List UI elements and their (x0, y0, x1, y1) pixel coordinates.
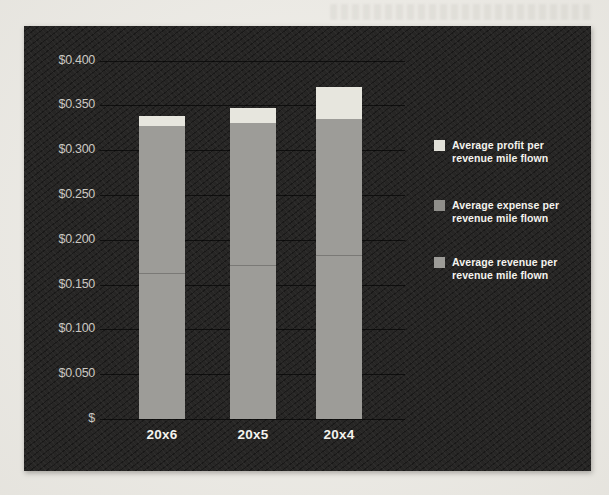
y-axis-tick-label: $0.400 (24, 53, 95, 67)
y-axis-tick-label: $0.350 (24, 97, 95, 111)
segment-revenue (230, 265, 276, 419)
x-axis-label-20x5: 20x5 (237, 427, 268, 442)
segment-profit (316, 87, 362, 119)
y-gridline (100, 61, 405, 62)
chart-panel: $$0.050$0.100$0.150$0.200$0.250$0.300$0.… (24, 26, 591, 471)
y-gridline (100, 419, 405, 420)
y-axis-tick-label: $0.300 (24, 142, 95, 156)
plot-area: $$0.050$0.100$0.150$0.200$0.250$0.300$0.… (24, 26, 591, 471)
y-axis-tick-label: $0.250 (24, 187, 95, 201)
segment-profit (230, 108, 276, 123)
segment-expense (230, 123, 276, 265)
y-axis-tick-label: $0.100 (24, 321, 95, 335)
segment-profit (139, 116, 185, 126)
scanned-page: $$0.050$0.100$0.150$0.200$0.250$0.300$0.… (0, 0, 609, 495)
segment-revenue (316, 255, 362, 419)
x-axis-label-20x4: 20x4 (323, 427, 354, 442)
segment-divider (230, 265, 276, 266)
segment-divider (316, 255, 362, 256)
segment-revenue (139, 273, 185, 419)
y-axis-tick-label: $0.200 (24, 232, 95, 246)
x-axis-label-20x6: 20x6 (146, 427, 177, 442)
segment-expense (139, 126, 185, 273)
y-axis-tick-label: $0.050 (24, 366, 95, 380)
segment-divider (139, 273, 185, 274)
y-axis-tick-label: $ (24, 411, 95, 425)
print-bleed-artifact (330, 4, 592, 20)
y-axis-tick-label: $0.150 (24, 277, 95, 291)
segment-expense (316, 119, 362, 255)
